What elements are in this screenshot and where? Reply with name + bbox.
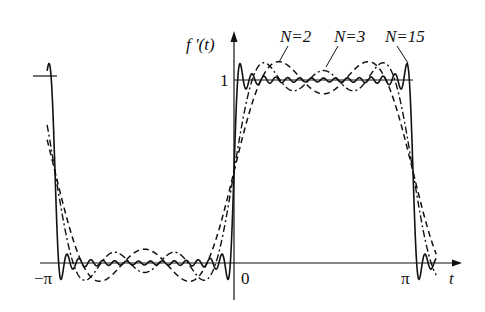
leader-n3 xyxy=(326,46,338,67)
leader-n15 xyxy=(397,46,408,63)
x-axis-arrow-icon xyxy=(452,260,462,267)
series-n3 xyxy=(47,63,436,280)
y-tick-1: 1 xyxy=(220,72,229,89)
x-tick-neg-pi: −π xyxy=(34,270,52,287)
x-tick-pi: π xyxy=(401,270,410,287)
annotation-leaders xyxy=(279,46,408,67)
y-axis-label: f '(t) xyxy=(186,36,215,53)
axes xyxy=(33,31,462,300)
series-n15 xyxy=(47,64,436,280)
y-axis-arrow-icon xyxy=(231,31,238,42)
legend-n3: N=3 xyxy=(334,28,365,45)
leader-n2 xyxy=(279,46,288,62)
x-axis-label: t xyxy=(449,270,454,287)
chart-plot-area xyxy=(0,0,485,312)
x-tick-zero: 0 xyxy=(241,270,250,287)
curves xyxy=(47,62,436,282)
legend-n2: N=2 xyxy=(280,28,311,45)
series-n2 xyxy=(47,62,436,282)
legend-n15: N=15 xyxy=(385,28,425,45)
